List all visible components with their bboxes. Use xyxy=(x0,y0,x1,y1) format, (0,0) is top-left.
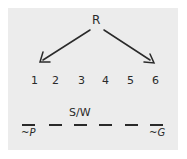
arrow-right-icon xyxy=(104,30,150,60)
arrow-left-icon xyxy=(43,30,90,60)
slot-3 xyxy=(74,124,87,126)
position-4: 4 xyxy=(102,75,109,87)
position-3: 3 xyxy=(78,75,85,87)
slot-2 xyxy=(49,124,62,126)
position-6: 6 xyxy=(152,75,159,87)
slot-6 xyxy=(150,124,163,126)
slot-3-label: S/W xyxy=(69,107,91,119)
left-constraint: ~P xyxy=(21,127,35,139)
right-constraint: ~G xyxy=(149,127,165,139)
position-5: 5 xyxy=(127,75,134,87)
slot-4 xyxy=(99,124,112,126)
slot-1 xyxy=(22,124,35,126)
slot-5 xyxy=(125,124,138,126)
position-2: 2 xyxy=(52,75,59,87)
position-1: 1 xyxy=(31,75,38,87)
diagram-panel: R 1 2 3 4 5 6 S/W ~P ~G xyxy=(8,8,178,150)
